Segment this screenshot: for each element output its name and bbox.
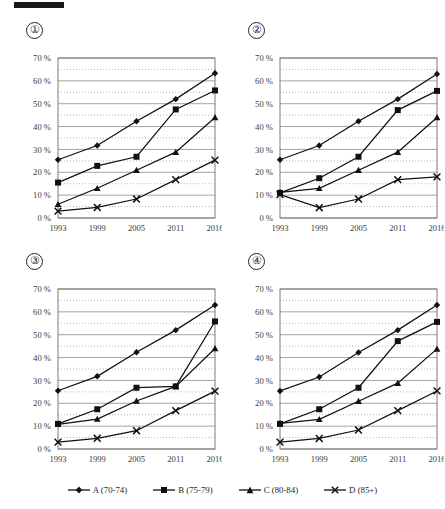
- legend-entry-a: A (70-74): [68, 485, 127, 495]
- svg-text:40 %: 40 %: [33, 122, 51, 132]
- svg-text:30 %: 30 %: [33, 145, 51, 155]
- legend-entry-b: B (75-79): [153, 485, 212, 495]
- svg-text:60 %: 60 %: [255, 307, 273, 317]
- svg-text:30 %: 30 %: [255, 145, 273, 155]
- svg-text:70 %: 70 %: [255, 53, 273, 63]
- legend-marker-cross-icon: [324, 485, 346, 495]
- svg-text:2005: 2005: [128, 223, 145, 233]
- svg-text:40 %: 40 %: [33, 353, 51, 363]
- line-chart-2: 0 %10 %20 %30 %40 %50 %60 %70 %199319992…: [222, 18, 444, 249]
- svg-text:0 %: 0 %: [259, 213, 273, 223]
- svg-text:2005: 2005: [350, 223, 367, 233]
- line-chart-3: 0 %10 %20 %30 %40 %50 %60 %70 %199319992…: [0, 249, 222, 480]
- svg-text:2016: 2016: [428, 223, 444, 233]
- line-chart-1: 0 %10 %20 %30 %40 %50 %60 %70 %199319992…: [0, 18, 222, 249]
- svg-text:2005: 2005: [350, 454, 367, 464]
- redaction-bar: [14, 2, 64, 8]
- svg-text:1993: 1993: [49, 223, 66, 233]
- svg-text:70 %: 70 %: [33, 284, 51, 294]
- svg-text:2011: 2011: [389, 223, 406, 233]
- svg-text:50 %: 50 %: [33, 99, 51, 109]
- svg-text:10 %: 10 %: [33, 190, 51, 200]
- legend-label-d: D (85+): [349, 485, 377, 495]
- legend-label-b: B (75-79): [178, 485, 212, 495]
- svg-text:0 %: 0 %: [259, 444, 273, 454]
- svg-text:2016: 2016: [428, 454, 444, 464]
- svg-text:10 %: 10 %: [255, 190, 273, 200]
- svg-text:1993: 1993: [271, 223, 288, 233]
- svg-text:1999: 1999: [311, 223, 328, 233]
- svg-text:2011: 2011: [167, 454, 184, 464]
- charts-grid: ① 0 %10 %20 %30 %40 %50 %60 %70 %1993199…: [0, 18, 445, 480]
- svg-text:2011: 2011: [167, 223, 184, 233]
- legend-label-c: C (80-84): [264, 485, 298, 495]
- svg-text:30 %: 30 %: [33, 376, 51, 386]
- svg-text:50 %: 50 %: [255, 99, 273, 109]
- legend-label-a: A (70-74): [93, 485, 127, 495]
- svg-text:20 %: 20 %: [255, 167, 273, 177]
- svg-text:70 %: 70 %: [255, 284, 273, 294]
- svg-text:10 %: 10 %: [33, 421, 51, 431]
- svg-text:20 %: 20 %: [33, 398, 51, 408]
- svg-text:10 %: 10 %: [255, 421, 273, 431]
- chart-panel-3: ③ 0 %10 %20 %30 %40 %50 %60 %70 %1993199…: [0, 249, 222, 480]
- svg-text:1999: 1999: [89, 223, 106, 233]
- svg-text:2016: 2016: [206, 454, 222, 464]
- svg-text:1993: 1993: [271, 454, 288, 464]
- chart-panel-1: ① 0 %10 %20 %30 %40 %50 %60 %70 %1993199…: [0, 18, 222, 249]
- legend-entry-c: C (80-84): [239, 485, 298, 495]
- svg-text:20 %: 20 %: [255, 398, 273, 408]
- svg-text:40 %: 40 %: [255, 122, 273, 132]
- svg-text:0 %: 0 %: [37, 213, 51, 223]
- svg-text:50 %: 50 %: [255, 330, 273, 340]
- legend-marker-square-icon: [153, 485, 175, 495]
- svg-text:60 %: 60 %: [33, 76, 51, 86]
- chart-legend: A (70-74) B (75-79) C (80-84) D (85+): [0, 482, 445, 498]
- svg-text:30 %: 30 %: [255, 376, 273, 386]
- svg-text:1999: 1999: [89, 454, 106, 464]
- svg-text:2016: 2016: [206, 223, 222, 233]
- svg-text:2005: 2005: [128, 454, 145, 464]
- legend-marker-triangle-icon: [239, 485, 261, 495]
- svg-text:1999: 1999: [311, 454, 328, 464]
- chart-panel-2: ② 0 %10 %20 %30 %40 %50 %60 %70 %1993199…: [222, 18, 444, 249]
- line-chart-4: 0 %10 %20 %30 %40 %50 %60 %70 %199319992…: [222, 249, 444, 480]
- chart-panel-4: ④ 0 %10 %20 %30 %40 %50 %60 %70 %1993199…: [222, 249, 444, 480]
- svg-text:70 %: 70 %: [33, 53, 51, 63]
- svg-text:50 %: 50 %: [33, 330, 51, 340]
- svg-text:40 %: 40 %: [255, 353, 273, 363]
- svg-text:60 %: 60 %: [255, 76, 273, 86]
- svg-text:2011: 2011: [389, 454, 406, 464]
- legend-entry-d: D (85+): [324, 485, 377, 495]
- svg-text:20 %: 20 %: [33, 167, 51, 177]
- svg-text:1993: 1993: [49, 454, 66, 464]
- svg-text:0 %: 0 %: [37, 444, 51, 454]
- svg-text:60 %: 60 %: [33, 307, 51, 317]
- legend-marker-diamond-icon: [68, 485, 90, 495]
